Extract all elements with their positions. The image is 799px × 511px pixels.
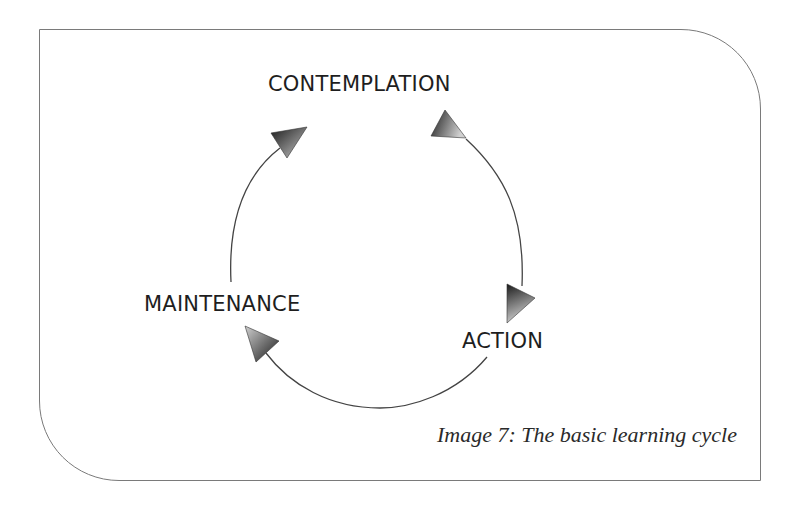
stage-label-maintenance: MAINTENANCE [144,294,300,315]
arrowhead-icon [507,284,535,323]
arrowhead-icon [245,326,279,362]
cycle-arc-right [466,139,522,286]
cycle-arc-left [231,148,280,282]
figure-caption: Image 7: The basic learning cycle [437,424,737,446]
arrowhead-icon [271,127,307,158]
arrowhead-icon [431,110,466,138]
cycle-arc-bottom [266,353,487,408]
stage-label-contemplation: CONTEMPLATION [268,74,451,95]
stage-label-action: ACTION [462,331,543,352]
